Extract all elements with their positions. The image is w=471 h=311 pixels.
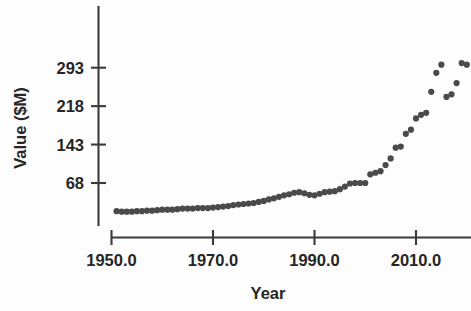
data-point [388,155,394,161]
data-point [398,144,404,150]
x-tick-label: 2010.0 [391,251,441,269]
data-point [428,89,434,95]
data-point [413,115,419,121]
data-point [377,168,383,174]
data-point [448,91,454,97]
x-tick-label: 1950.0 [86,251,136,269]
scatter-chart: 68143218293 1950.01970.01990.02010.0 Val… [0,0,471,311]
data-point [403,131,409,137]
data-point [382,162,388,168]
y-tick-label: 143 [56,136,84,154]
x-tick-label: 1990.0 [289,251,339,269]
y-tick-label: 68 [66,174,84,192]
data-point [423,110,429,116]
data-point [454,80,460,86]
chart-canvas: 68143218293 1950.01970.01990.02010.0 Val… [0,0,471,311]
y-tick-label: 218 [56,97,84,115]
y-axis-title: Value ($M) [11,87,29,169]
data-point [362,180,368,186]
x-tick-label: 1970.0 [188,251,238,269]
data-point [433,70,439,76]
data-point [464,62,470,68]
data-points-group [113,60,469,215]
data-point [408,127,414,133]
x-tick-group: 1950.01970.01990.02010.0 [86,230,441,269]
x-axis-title: Year [251,284,286,302]
data-point [438,62,444,68]
y-tick-label: 293 [56,59,84,77]
